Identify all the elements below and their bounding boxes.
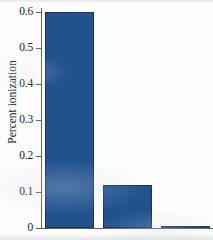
y-axis-title: Percent ionization [6,32,18,172]
y-tick-label: 0.4 [19,76,33,91]
y-tick-0.3: 0.3 [0,120,41,121]
y-tick-label: 0.2 [19,148,33,163]
bar-series-0 [45,12,94,228]
y-tick-label: 0.6 [19,4,33,19]
y-tick-0.4: 0.4 [0,84,41,85]
bars-layer [41,0,213,228]
bar-series-1 [103,185,152,228]
y-tick-label: 0.1 [19,184,33,199]
y-tick-label: 0.5 [19,40,33,55]
y-tick-0.6: 0.6 [0,12,41,13]
y-tick-0.2: 0.2 [0,156,41,157]
y-tick-label: 0 [27,220,33,235]
y-tick-0.5: 0.5 [0,48,41,49]
bar-chart: Percent ionization 0.6 0.5 0.4 0.3 0.2 0… [0,0,213,240]
y-tick-0.1: 0.1 [0,192,41,193]
x-axis-line [41,228,213,229]
bar-series-2 [161,226,210,228]
y-tick-0: 0 [0,228,41,229]
y-tick-label: 0.3 [19,112,33,127]
